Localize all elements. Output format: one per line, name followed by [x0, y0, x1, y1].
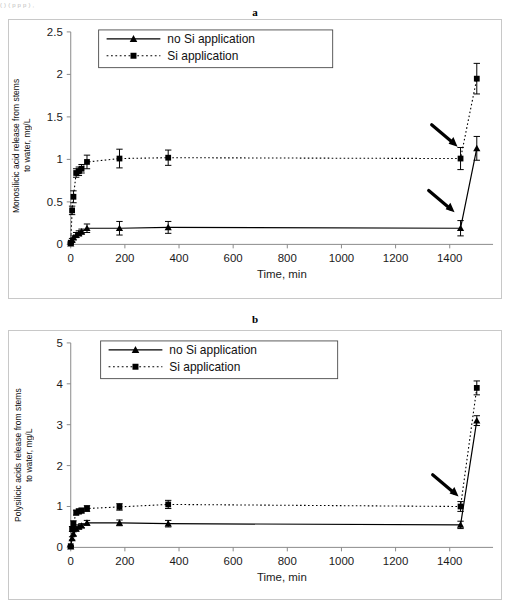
x-tick-label: 400: [169, 555, 188, 567]
marker-square: [68, 240, 74, 246]
x-axis-title: Time, min: [257, 268, 307, 280]
marker-square: [474, 385, 480, 391]
y-tick-label: 0: [56, 541, 62, 553]
x-axis-title: Time, min: [257, 571, 307, 583]
x-tick-label: 1200: [383, 252, 408, 264]
x-tick-label: 0: [68, 555, 74, 567]
x-tick-label: 600: [224, 252, 243, 264]
legend-label-si: Si application: [167, 49, 238, 63]
y-tick-label: 0.5: [47, 196, 63, 208]
y-tick-label: 1: [56, 153, 62, 165]
x-tick-label: 600: [224, 555, 243, 567]
series-line: [71, 148, 477, 243]
marker-square: [71, 521, 77, 527]
panel-label-b: b: [0, 313, 510, 325]
series-si: [68, 63, 480, 245]
marker-square: [84, 159, 90, 165]
y-tick-label: 3: [56, 419, 62, 431]
marker-square: [84, 506, 90, 512]
legend-label-no-si: no Si application: [169, 343, 257, 357]
annotation-arrow: [432, 125, 458, 147]
series-line: [71, 421, 477, 547]
marker-square: [117, 504, 123, 510]
marker-square: [474, 76, 480, 82]
chart-legend: no Si applicationSi application: [99, 30, 333, 68]
figure-page: ( ) ( p p p: [0, 0, 510, 607]
arrow-shaft: [429, 191, 451, 209]
x-tick-label: 1200: [383, 555, 408, 567]
legend-label-no-si: no Si application: [167, 32, 255, 46]
legend-label-si: Si application: [169, 360, 240, 374]
series-no-si: [67, 136, 480, 246]
chart-a-y-axis-label: Monosilicic acid release from stems to w…: [10, 28, 34, 263]
panel-label-a: a: [0, 6, 510, 18]
chart-b-y-axis-label: Polysilicic acids release from stems to …: [12, 344, 36, 566]
series-line: [71, 388, 477, 546]
x-tick-label: 0: [68, 252, 74, 264]
marker-square: [79, 508, 85, 514]
y-tick-label: 5: [56, 337, 62, 349]
marker-triangle: [473, 145, 480, 151]
chart-a-svg: 00.511.522.50200400600800100012001400Tim…: [9, 20, 501, 298]
x-tick-label: 800: [278, 555, 297, 567]
x-tick-label: 200: [115, 555, 134, 567]
marker-square: [117, 156, 123, 162]
marker-square: [71, 194, 77, 200]
series-no-si: [67, 416, 480, 550]
x-tick-label: 1400: [437, 555, 462, 567]
y-tick-label: 1.5: [47, 111, 63, 123]
marker-square: [165, 502, 171, 508]
y-tick-label: 1: [56, 500, 62, 512]
x-tick-label: 1000: [329, 555, 354, 567]
x-tick-label: 800: [278, 252, 297, 264]
x-tick-label: 1000: [329, 252, 354, 264]
annotation-arrow: [433, 475, 459, 497]
marker-square: [165, 155, 171, 161]
chart-panel-a: 00.511.522.50200400600800100012001400Tim…: [8, 19, 502, 299]
marker-square: [68, 543, 74, 549]
chart-legend: no Si applicationSi application: [101, 341, 338, 379]
y-tick-label: 2: [56, 460, 62, 472]
arrow-shaft: [433, 475, 455, 493]
x-tick-label: 1400: [437, 252, 462, 264]
y-tick-label: 0: [56, 238, 62, 250]
legend-marker-square: [132, 364, 138, 370]
marker-square: [69, 208, 75, 214]
marker-triangle: [473, 417, 480, 423]
chart-panel-b: 0123450200400600800100012001400Time, min…: [8, 330, 502, 600]
x-tick-label: 200: [115, 252, 134, 264]
y-tick-label: 4: [56, 378, 63, 390]
series-line: [71, 79, 477, 243]
marker-square: [458, 504, 464, 510]
annotation-arrow: [429, 191, 455, 213]
legend-marker-square: [131, 53, 137, 59]
y-tick-label: 2: [56, 68, 62, 80]
arrow-shaft: [432, 125, 454, 143]
marker-square: [458, 156, 464, 162]
y-tick-label: 2.5: [47, 26, 63, 38]
marker-square: [79, 166, 85, 172]
x-tick-label: 400: [169, 252, 188, 264]
chart-b-svg: 0123450200400600800100012001400Time, min…: [9, 331, 501, 599]
